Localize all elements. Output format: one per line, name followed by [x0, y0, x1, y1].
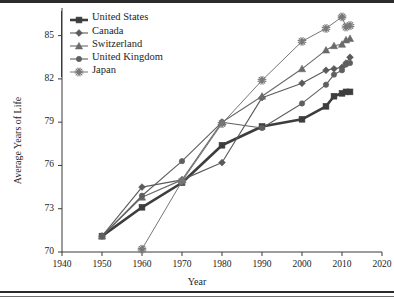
- data-point-marker: [347, 89, 353, 95]
- x-tick-label: 1940: [42, 260, 82, 270]
- data-point-marker: [259, 125, 264, 130]
- legend-item-united-states[interactable]: United States: [69, 11, 163, 24]
- data-point-marker: [331, 93, 337, 99]
- legend-label: Japan: [92, 65, 116, 76]
- data-point-marker: [322, 25, 330, 33]
- legend-item-united-kingdom[interactable]: United Kingdom: [69, 51, 163, 64]
- y-tick-label: 76: [28, 160, 54, 170]
- data-point-marker: [331, 72, 336, 77]
- series-united-states: [99, 89, 353, 239]
- chart-legend: United StatesCanadaSwitzerlandUnited Kin…: [61, 11, 163, 77]
- data-point-marker: [347, 60, 352, 65]
- y-tick-label: 85: [28, 31, 54, 41]
- data-point-marker: [331, 65, 338, 72]
- y-tick-label: 79: [28, 117, 54, 127]
- y-axis-title: Average Years of Life: [12, 61, 23, 221]
- legend-marker-icon: [69, 25, 89, 37]
- legend-label: United Kingdom: [92, 52, 163, 63]
- data-point-marker: [323, 103, 329, 109]
- data-point-marker: [139, 204, 145, 210]
- series-line: [102, 92, 350, 236]
- data-point-marker: [298, 38, 306, 46]
- data-point-marker: [258, 93, 265, 100]
- legend-marker-icon: [69, 51, 89, 63]
- figure: 7073767982851940195019601970198019902000…: [0, 0, 394, 300]
- data-point-marker: [322, 46, 329, 53]
- data-point-marker: [179, 158, 184, 163]
- x-tick-label: 1960: [122, 260, 162, 270]
- data-point-marker: [219, 142, 225, 148]
- x-tick-label: 2020: [362, 260, 394, 270]
- legend-label: United States: [92, 12, 148, 23]
- legend-item-switzerland[interactable]: Switzerland: [69, 37, 163, 50]
- data-point-marker: [139, 193, 144, 198]
- line-chart-plot: [0, 0, 394, 300]
- legend-marker-icon: [69, 38, 89, 50]
- data-point-marker: [339, 68, 344, 73]
- data-point-marker: [258, 76, 266, 84]
- legend-item-canada[interactable]: Canada: [69, 24, 163, 37]
- bottom-divider-rule: [0, 291, 394, 293]
- x-tick-label: 2000: [282, 260, 322, 270]
- y-tick-label: 73: [28, 204, 54, 214]
- data-point-marker: [346, 35, 353, 42]
- x-tick-label: 2010: [322, 260, 362, 270]
- x-tick-label: 1990: [242, 260, 282, 270]
- data-point-marker: [299, 101, 304, 106]
- y-tick-label: 70: [28, 247, 54, 257]
- data-point-marker: [76, 17, 82, 23]
- y-tick-label: 82: [28, 74, 54, 84]
- bottom-divider-rule-secondary: [0, 296, 394, 297]
- legend-label: Canada: [92, 26, 124, 37]
- legend-marker-icon: [69, 64, 89, 76]
- x-tick-label: 1970: [162, 260, 202, 270]
- data-point-marker: [299, 116, 305, 122]
- x-axis-title: Year: [0, 276, 394, 287]
- legend-label: Switzerland: [92, 39, 142, 50]
- data-point-marker: [76, 29, 83, 36]
- data-point-marker: [323, 82, 328, 87]
- x-tick-label: 1950: [82, 260, 122, 270]
- data-point-marker: [347, 54, 354, 61]
- x-tick-label: 1980: [202, 260, 242, 270]
- data-point-marker: [299, 80, 306, 87]
- data-point-marker: [76, 56, 81, 61]
- data-point-marker: [99, 233, 104, 238]
- legend-item-japan[interactable]: Japan: [69, 64, 163, 77]
- data-point-marker: [338, 13, 346, 21]
- data-point-marker: [323, 67, 330, 74]
- data-point-marker: [219, 159, 226, 166]
- legend-marker-icon: [69, 12, 89, 24]
